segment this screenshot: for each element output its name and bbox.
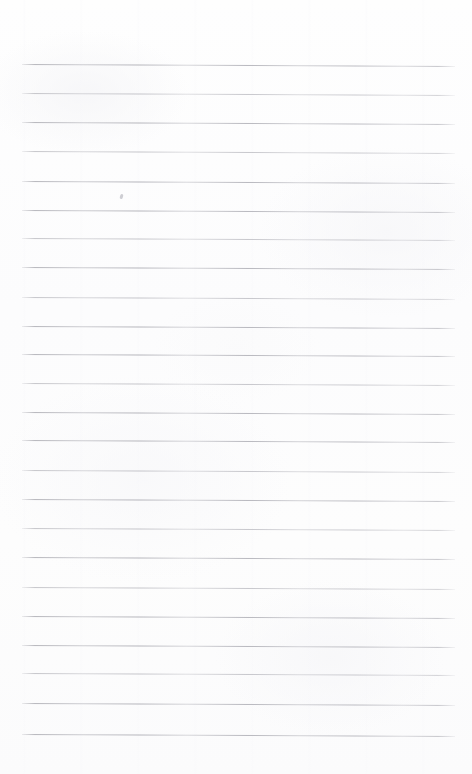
ruled-line	[22, 181, 455, 184]
ruled-line	[22, 238, 455, 241]
ruled-lines-layer	[0, 0, 472, 774]
ruled-line	[22, 499, 455, 502]
ruled-line	[22, 326, 455, 329]
ruled-line	[22, 297, 455, 300]
ruled-line	[22, 734, 455, 737]
ruled-line	[22, 440, 455, 443]
ruled-line	[22, 267, 455, 270]
ruled-line	[22, 383, 455, 386]
ruled-line	[22, 528, 455, 531]
ruled-line	[22, 557, 455, 560]
ruled-line	[22, 122, 455, 125]
ruled-line	[22, 587, 455, 590]
ruled-line	[22, 151, 455, 154]
ruled-line	[22, 645, 455, 648]
ruled-line	[22, 703, 455, 706]
ruled-line	[22, 412, 455, 415]
ruled-line	[22, 210, 455, 213]
ruled-line	[22, 354, 455, 357]
scanned-page	[0, 0, 472, 774]
ruled-line	[22, 470, 455, 473]
ruled-line	[22, 673, 455, 676]
ruled-line	[22, 616, 455, 619]
ruled-line	[22, 93, 455, 96]
ruled-line	[22, 64, 455, 67]
